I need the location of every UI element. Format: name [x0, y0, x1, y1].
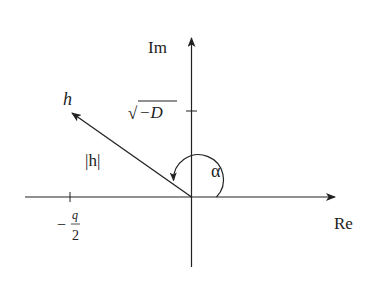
- fraction-denominator: 2: [72, 228, 79, 243]
- fraction-numerator: q: [72, 208, 78, 222]
- magnitude-label: |h|: [85, 151, 100, 170]
- imag-tick-label: −D: [139, 103, 163, 122]
- complex-plane-diagram: Im Re h |h| α √ −D − q 2: [0, 0, 378, 284]
- real-axis-label: Re: [334, 214, 353, 233]
- vector-label: h: [63, 89, 72, 109]
- imag-axis-label: Im: [148, 38, 167, 57]
- minus-sign: −: [57, 216, 66, 233]
- angle-label: α: [211, 161, 221, 181]
- sqrt-symbol: √: [128, 104, 138, 123]
